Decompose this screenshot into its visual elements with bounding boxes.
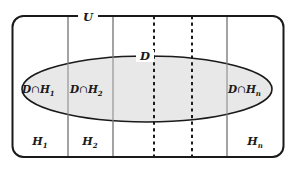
cell-1-subscript: 1 [43,141,48,150]
universe-label: U [83,10,94,24]
cell-1-base: H [31,135,43,148]
inter-1-operator: ∩ [31,83,40,95]
inter-n-operator: ∩ [237,83,246,95]
set-d-label: D [139,49,150,63]
inter-2-subscript: 2 [97,89,103,98]
diagram-canvas: U D D∩H1 D∩H2 D∩Hn H1 H2 Hn [0,0,300,169]
inter-1-subscript: 1 [50,89,55,98]
cell-2-subscript: 2 [92,141,98,150]
cell-2-base: H [81,135,93,148]
venn-partition-diagram: U D D∩H1 D∩H2 D∩Hn H1 H2 Hn [0,0,300,169]
inter-n-subscript: n [256,89,261,98]
cell-n-subscript: n [258,141,263,150]
inter-2-operator: ∩ [79,83,88,95]
cell-n-base: H [246,135,258,148]
